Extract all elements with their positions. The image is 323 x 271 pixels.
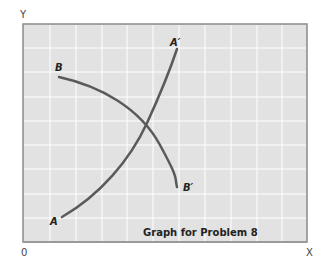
chart-canvas: B A′ B′ A Graph for Problem 8	[0, 0, 323, 271]
label-a-prime: A′	[169, 37, 181, 48]
label-b-prime: B′	[183, 182, 194, 193]
chart-title: Graph for Problem 8	[143, 227, 258, 238]
label-a: A	[49, 216, 58, 227]
label-b: B	[55, 62, 63, 73]
plot-area	[23, 24, 307, 242]
